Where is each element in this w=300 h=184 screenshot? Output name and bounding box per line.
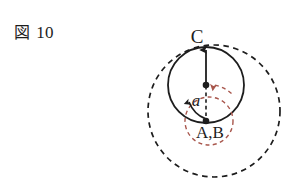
label-angle-a: a bbox=[192, 91, 201, 110]
center-dot bbox=[203, 82, 210, 89]
outer-dashed-circle bbox=[148, 45, 280, 177]
figure-root: 図 10 bbox=[0, 0, 300, 184]
geometry-diagram: C a A,B bbox=[0, 0, 300, 184]
label-point-c: C bbox=[191, 26, 204, 47]
label-points-ab: A,B bbox=[196, 123, 224, 142]
red-arrow bbox=[214, 85, 232, 94]
